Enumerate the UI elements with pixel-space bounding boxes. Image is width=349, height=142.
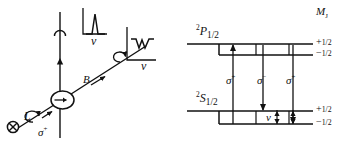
incident-polarization-label: σ+ [38, 126, 47, 138]
inset-right-axis-label: ν [141, 60, 146, 72]
sigma-sign: + [43, 125, 47, 132]
transition-0-sign: + [231, 73, 235, 80]
lower-state-levels [187, 111, 313, 124]
upper-state-levels [187, 44, 313, 55]
upper-sublevel-label-plus: +1/2 [316, 37, 332, 47]
magnetic-field-label: B [83, 74, 90, 85]
upper-plus-value: 1/2 [322, 38, 332, 47]
zeeman-splitting-label: ν [266, 112, 271, 123]
upper-term-j: 1/2 [207, 30, 219, 40]
quantum-number-header: MJ [316, 6, 328, 20]
mj-subscript: J [325, 12, 328, 19]
upper-state-term-symbol: 2P1/2 [196, 24, 219, 41]
inset-top-axis-label: ν [91, 35, 96, 47]
upper-sublevel-label-minus: −1/2 [316, 48, 332, 58]
upper-minus-value: 1/2 [322, 49, 332, 58]
lower-sublevel-label-minus: −1/2 [316, 117, 332, 127]
source-label: L [24, 110, 31, 122]
transition-1-sign: − [262, 73, 266, 80]
upper-term-letter: P [200, 24, 207, 38]
transition-label-1: σ− [257, 74, 266, 86]
lower-sublevel-label-plus: +1/2 [316, 104, 332, 114]
transition-label-2: σ+ [286, 74, 295, 86]
lower-term-j: 1/2 [206, 97, 218, 107]
zeeman-splitting-arrows [274, 110, 295, 124]
vapor-cell-icon [51, 91, 74, 109]
lower-plus-value: 1/2 [322, 105, 332, 114]
fluorescence-spectrum-inset [83, 8, 107, 34]
transition-label-0: σ+ [226, 74, 235, 86]
figure-vector-layer [0, 0, 349, 142]
figure-canvas: L σ+ B ν ν MJ 2P1/2 2S1/2 +1/2 −1/2 +1/2… [0, 0, 349, 142]
mj-letter: M [316, 5, 325, 17]
lower-minus-value: 1/2 [322, 118, 332, 127]
transition-2-sign: + [291, 73, 295, 80]
lower-state-term-symbol: 2S1/2 [196, 91, 218, 108]
b-field-arrow [91, 77, 105, 86]
laser-source-icon [7, 121, 18, 132]
